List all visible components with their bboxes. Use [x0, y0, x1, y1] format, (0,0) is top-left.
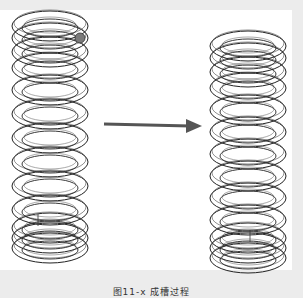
- left-spring: [12, 10, 88, 263]
- marker-dot-icon: [75, 33, 85, 43]
- arrow-right-icon: [104, 119, 202, 133]
- right-spring: [210, 30, 286, 273]
- figure-caption: 图11-x 成槽过程: [0, 285, 303, 298]
